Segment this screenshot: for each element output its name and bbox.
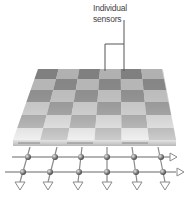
readout-wire: [48, 147, 57, 182]
arrow-down-icon: [15, 182, 25, 190]
readout-node: [131, 154, 137, 160]
arrow-down-icon: [73, 182, 83, 190]
label-line-2: sensors: [93, 14, 143, 25]
arrow-right-icon: [177, 168, 184, 176]
readout-wire: [158, 147, 165, 182]
diagram-canvas: [0, 0, 185, 200]
arrow-down-icon: [43, 182, 53, 190]
readout-node: [160, 169, 166, 175]
readout-wire: [132, 147, 137, 182]
readout-node: [52, 154, 58, 160]
readout-node: [158, 154, 164, 160]
readout-node: [47, 169, 53, 175]
arrow-down-icon: [160, 182, 170, 190]
readout-grid: [5, 147, 184, 190]
readout-node: [104, 154, 110, 160]
readout-node: [76, 169, 82, 175]
callout-lines: [105, 20, 124, 71]
readout-node: [25, 154, 31, 160]
readout-wire: [20, 147, 30, 182]
readout-node: [20, 169, 26, 175]
arrow-down-icon: [132, 182, 142, 190]
individual-sensors-label: Individual sensors: [93, 3, 143, 25]
board-shading: [13, 69, 176, 140]
readout-node: [133, 169, 139, 175]
sensor-array-diagram: Individual sensors: [0, 0, 185, 200]
readout-wire: [78, 147, 82, 182]
arrow-right-icon: [170, 153, 177, 161]
arrow-down-icon: [102, 182, 112, 190]
readout-node: [78, 154, 84, 160]
readout-node: [104, 169, 110, 175]
label-line-1: Individual: [93, 3, 143, 14]
